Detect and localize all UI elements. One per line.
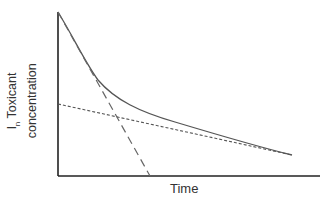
chart-plot	[0, 0, 336, 208]
y-axis-label-prefix: l	[5, 126, 19, 129]
elimination-phase-line	[58, 104, 292, 155]
y-axis-label: ln Toxicant concentration	[5, 41, 39, 161]
y-axis-label-line2: concentration	[25, 63, 39, 138]
x-axis-label: Time	[170, 181, 198, 196]
distribution-phase-line	[58, 12, 150, 176]
y-axis-label-sub: n	[13, 122, 22, 126]
concentration-curve	[58, 12, 292, 155]
y-axis-label-line1: Toxicant	[5, 73, 19, 122]
